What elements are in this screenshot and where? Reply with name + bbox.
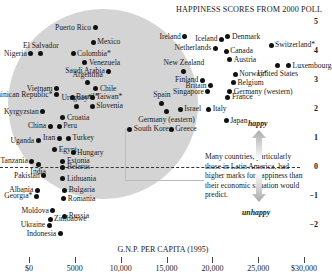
point-label: France (232, 93, 253, 101)
point-label: Israel (184, 105, 201, 113)
point-label: Dominican Republic* (0, 91, 53, 99)
point-label: Italy (213, 105, 227, 113)
data-point (29, 159, 34, 164)
x-tick-mark (304, 257, 305, 263)
data-point (206, 107, 211, 112)
x-tick-label: 10,000 (110, 264, 132, 273)
x-tick-label: 20,000 (201, 264, 223, 273)
data-point (182, 34, 187, 39)
x-tick-mark (212, 257, 213, 263)
point-label: Romania (68, 195, 95, 203)
arrow-up-icon (252, 130, 266, 160)
point-label: Turkey (72, 134, 94, 142)
point-label: Puerto Rico (55, 24, 91, 32)
point-label: Slovenia (96, 102, 123, 110)
x-tick-label: $30,000 (291, 264, 317, 273)
x-tick-mark (167, 257, 168, 263)
point-label: Lithuania (67, 175, 96, 183)
data-point (219, 37, 224, 42)
point-label: Peru (63, 122, 77, 130)
data-point (57, 124, 62, 129)
data-point (231, 80, 236, 85)
arrow-down-icon (252, 172, 266, 202)
x-tick-label: 15,000 (156, 264, 178, 273)
data-point (71, 150, 76, 155)
data-point (227, 57, 232, 62)
point-label: Zimbabwe (54, 215, 86, 223)
point-label: Georgia* (4, 192, 32, 200)
point-label: Singapore (173, 88, 204, 96)
x-tick-mark (29, 257, 30, 263)
data-point (62, 188, 67, 193)
point-label: Moldova (21, 207, 48, 215)
point-label: China (28, 122, 46, 130)
data-point (54, 92, 59, 97)
data-point (34, 194, 39, 199)
point-label: Germany (eastern) (138, 116, 195, 124)
unhappy-label: unhappy (242, 208, 270, 217)
y-tick-label: −1 (309, 191, 318, 200)
data-point (90, 104, 95, 109)
x-tick-label: $0 (25, 264, 33, 273)
point-label: Iran (43, 134, 55, 142)
point-label: Argentina (73, 71, 103, 79)
x-tick-mark (75, 257, 76, 263)
data-point (91, 40, 96, 45)
data-point (205, 89, 210, 94)
data-point (224, 118, 229, 123)
data-point (286, 63, 291, 68)
data-point (269, 43, 274, 48)
point-label: Denmark (232, 33, 260, 41)
y-tick-label: 0 (314, 162, 318, 171)
data-point (61, 196, 66, 201)
point-label: Colombia* (77, 50, 111, 58)
data-point (169, 127, 174, 132)
data-point (66, 136, 71, 141)
y-tick-label: 2 (314, 104, 318, 113)
point-label: Bulgaria (69, 186, 95, 194)
point-label: Norway* (239, 70, 267, 78)
data-point (74, 104, 79, 109)
data-point (93, 25, 98, 30)
x-tick-label: 25,000 (247, 264, 269, 273)
point-label: Spain (153, 91, 170, 99)
chart-title: HAPPINESS SCORES FROM 2000 POLL (176, 5, 322, 14)
y-tick-label: 1 (314, 133, 318, 142)
data-point (35, 188, 40, 193)
point-label: South Korea (134, 125, 172, 133)
point-label: Mexico (97, 38, 120, 46)
data-point (225, 34, 230, 39)
data-point (275, 63, 280, 68)
point-label: Indonesia (27, 230, 57, 238)
data-point (225, 95, 230, 100)
data-point (36, 162, 41, 167)
point-label: Switzerland* (275, 41, 315, 49)
x-tick-mark (258, 257, 259, 263)
callout-connector (125, 128, 126, 160)
data-point (58, 231, 63, 236)
happy-label: happy (248, 119, 268, 128)
data-point (213, 46, 218, 51)
x-tick-mark (121, 257, 122, 263)
x-tick-label: 5000 (67, 264, 83, 273)
y-tick-label: −2 (309, 220, 318, 229)
data-point (50, 208, 55, 213)
callout-bracket (125, 158, 204, 181)
point-label: Ireland (159, 33, 181, 41)
data-point (48, 124, 53, 129)
point-label: Belarus (67, 163, 90, 171)
point-label: Kyrgyzstan (4, 108, 39, 116)
point-label: Japan (230, 117, 247, 125)
point-label: Belgium (237, 79, 263, 87)
point-label: Pakistan (14, 172, 40, 180)
data-point (71, 51, 76, 56)
data-point (208, 83, 213, 88)
point-label: Canada (230, 47, 253, 55)
point-label: New Zealand (164, 59, 205, 67)
point-label: Luxembourg (293, 62, 332, 70)
point-label: Tanzania (0, 157, 27, 165)
y-tick-label: 5 (314, 17, 318, 26)
x-axis-title: G.N.P. PER CAPITA (1995) (0, 245, 326, 254)
data-point (233, 72, 238, 77)
